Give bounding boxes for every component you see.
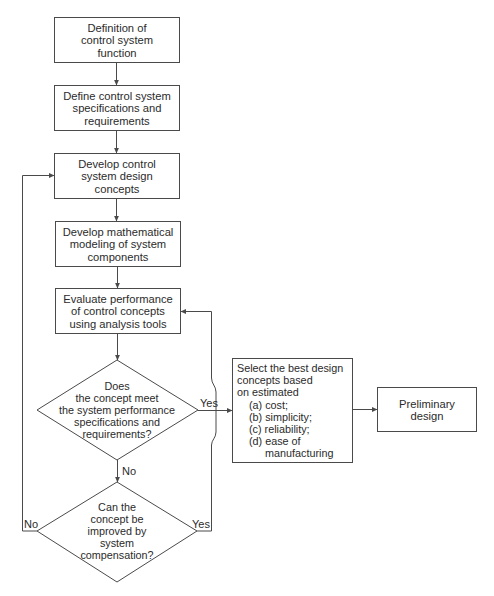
decision-text-line: compensation? [80,549,153,561]
node-text-line: design [411,410,444,422]
node-design-concepts: Develop control system design concepts [55,154,179,199]
node-text-line: system design [81,170,153,182]
edge-d2-n5-yes-upper [181,312,212,379]
node-specifications: Define control system specifications and… [55,86,179,131]
decision-text-line: the system performance [59,404,175,416]
node-modeling: Develop mathematical modeling of system … [56,222,180,267]
node-text-line: on estimated [237,386,351,398]
node-text-line: using analysis tools [69,318,166,330]
node-text-line: Develop control [78,158,156,170]
node-text-line: requirements [84,115,149,127]
node-text-line: concepts [95,183,140,195]
node-text-line: Develop mathematical [63,226,174,238]
node-text-line: Define control system [63,90,171,102]
decision-text-line: system [100,537,134,549]
criteria-item-simplicity: (b) simplicity; [237,411,351,423]
decision-text-line: requirements? [82,428,151,440]
criteria-item-reliability: (c) reliability; [237,423,351,435]
decision-text-line: improved by [88,525,147,537]
decision-text-line: concept be [91,513,144,525]
edge-bracket-bridge [212,378,217,445]
node-text-line: components [88,251,149,263]
decision-text-line: Does [104,380,129,392]
decision-meet-specs: Does the concept meet the system perform… [47,378,187,442]
edge-label-d1-no: No [122,465,136,477]
node-text-line: of control concepts [71,305,165,317]
node-preliminary-design: Preliminary design [378,388,476,432]
node-text-line: modeling of system [70,238,166,250]
node-text-line: Evaluate performance [63,293,172,305]
decision-text-line: specifications and [74,416,160,428]
criteria-item-cost: (a) cost; [237,399,351,411]
node-text-line: Select the best design [237,362,351,374]
edge-d2-n3-no [23,176,55,532]
node-text-line: function [97,47,136,59]
criteria-item-ease-continuation: manufacturing [237,447,351,459]
node-text-line: specifications and [73,102,162,114]
node-text-line: concepts based [237,374,351,386]
node-evaluate: Evaluate performance of control concepts… [56,289,180,334]
node-definition: Definition of control system function [55,18,179,63]
edge-label-d2-no: No [24,518,38,530]
node-text-line: control system [81,34,153,46]
decision-text-line: Can the [98,501,136,513]
edge-label-d1-yes: Yes [200,397,218,409]
decision-compensation: Can the concept be improved by system co… [67,499,167,563]
node-select-best: Select the best design concepts based on… [237,362,351,460]
edge-label-d2-yes: Yes [192,518,210,530]
node-text-line: Definition of [87,22,146,34]
decision-text-line: the concept meet [76,392,159,404]
criteria-item-ease: (d) ease of [237,435,351,447]
node-text-line: Preliminary [399,398,455,410]
